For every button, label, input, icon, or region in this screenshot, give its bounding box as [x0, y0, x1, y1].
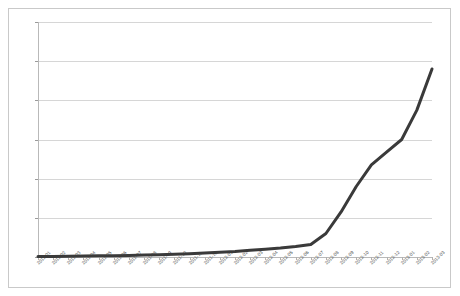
chart-plot-wrapper: 6000005000004000003000002000001000000 20… [0, 0, 460, 296]
x-axis-label: 2013-03 [430, 250, 446, 266]
series-polyline [38, 69, 432, 257]
line-series [38, 22, 432, 257]
